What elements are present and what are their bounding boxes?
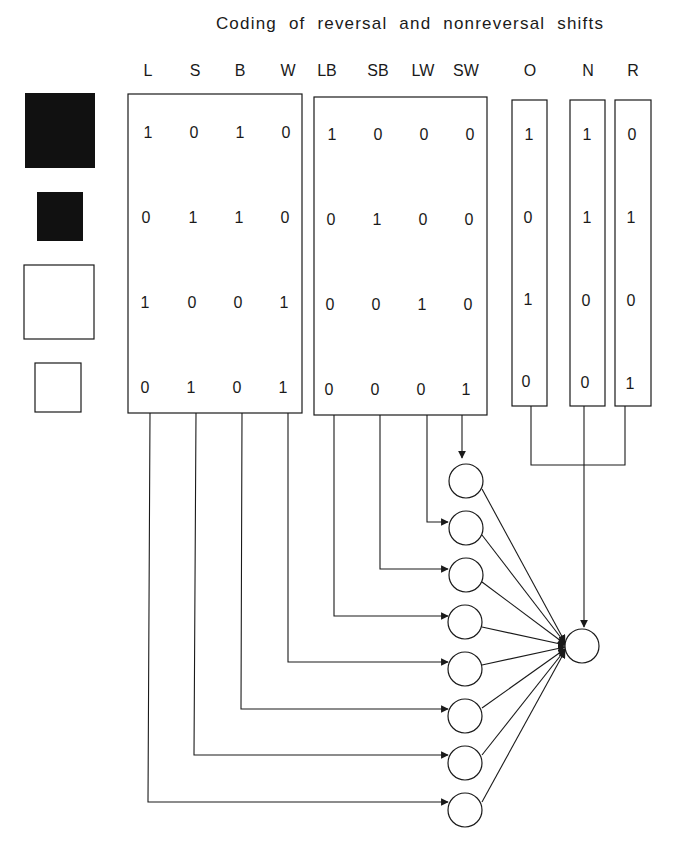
o-connection [531, 406, 625, 465]
cell: 0 [419, 211, 428, 229]
s-connection [194, 413, 448, 755]
cell: 0 [327, 211, 336, 229]
output-node [565, 629, 599, 663]
cell: 1 [235, 209, 244, 227]
cell: 0 [233, 379, 242, 397]
cell: 0 [420, 126, 429, 144]
small-white-square [35, 363, 81, 412]
hidden-node-4 [448, 605, 482, 639]
large-black-square [25, 93, 95, 168]
w-connection [288, 413, 448, 662]
cell: 0 [466, 126, 475, 144]
cell: 1 [144, 124, 153, 142]
cell: 1 [627, 209, 636, 227]
cell: 0 [142, 209, 151, 227]
cell: 1 [418, 296, 427, 314]
cell: 1 [583, 126, 592, 144]
cell: 0 [522, 373, 531, 391]
cell: 1 [373, 211, 382, 229]
cell: 1 [524, 291, 533, 309]
cell: 1 [236, 124, 245, 142]
cell: 1 [462, 381, 471, 399]
o-box [512, 100, 547, 406]
cell: 1 [187, 379, 196, 397]
cell: 1 [583, 209, 592, 227]
cell: 0 [464, 296, 473, 314]
lb-connection [334, 415, 448, 616]
cell: 0 [141, 379, 150, 397]
cell: 0 [282, 124, 291, 142]
sb-connection [380, 415, 448, 569]
b-connection [241, 413, 448, 709]
hidden-node-3 [449, 558, 483, 592]
cell: 1 [279, 379, 288, 397]
hidden-node-1 [449, 464, 483, 498]
cell: 0 [371, 381, 380, 399]
lw-connection [427, 415, 448, 522]
cell: 0 [582, 292, 591, 310]
hidden-node-5 [448, 652, 482, 686]
cell: 0 [465, 211, 474, 229]
cell: 1 [626, 375, 635, 393]
hidden-node-7 [448, 746, 482, 780]
n-box [570, 100, 605, 406]
cell: 0 [524, 209, 533, 227]
cell: 0 [234, 294, 243, 312]
r-box [615, 100, 651, 406]
cell: 0 [628, 126, 637, 144]
small-black-square [37, 192, 83, 241]
cell: 1 [525, 126, 534, 144]
cell: 1 [280, 294, 289, 312]
hidden-node-8 [448, 793, 482, 827]
cell: 1 [141, 294, 150, 312]
l-connection [148, 413, 448, 802]
large-white-square [24, 265, 94, 339]
cell: 0 [627, 292, 636, 310]
cell: 0 [190, 124, 199, 142]
cell: 0 [326, 296, 335, 314]
cell: 1 [328, 126, 337, 144]
cell: 0 [325, 381, 334, 399]
cell: 0 [281, 209, 290, 227]
cell: 0 [188, 294, 197, 312]
conjunctive-box [314, 97, 487, 415]
single-dimension-box [128, 94, 302, 413]
hidden-node-2 [449, 511, 483, 545]
cell: 1 [189, 209, 198, 227]
cell: 0 [581, 374, 590, 392]
cell: 0 [374, 126, 383, 144]
cell: 0 [417, 381, 426, 399]
cell: 0 [372, 296, 381, 314]
hidden-node-6 [448, 699, 482, 733]
